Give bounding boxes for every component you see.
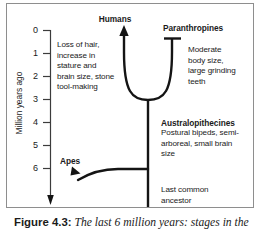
time-axis <box>43 30 54 205</box>
annotation-australopithecines: Postural bipeds, semi- arboreal, small b… <box>161 128 257 160</box>
axis-tick-label-2: 2 <box>24 71 38 81</box>
label-australopithecines: Australopithecines <box>161 118 257 129</box>
figure-caption: Figure 4.3: The last 6 million years: st… <box>14 216 254 229</box>
axis-tick-label-5: 5 <box>24 140 38 150</box>
axis-tick-label-0: 0 <box>24 25 38 35</box>
axis-tick-label-1: 1 <box>24 48 38 58</box>
label-humans: Humans <box>76 14 154 25</box>
figure-caption-label: Figure 4.3: <box>14 216 72 228</box>
annotation-paranthropines: Moderate body size, large grinding teeth <box>188 45 254 87</box>
figure-caption-text: The last 6 million years: stages in the <box>72 216 249 229</box>
axis-title: Million years ago <box>14 64 24 142</box>
annotation-humans: Loss of hair, increase in stature and br… <box>57 40 129 93</box>
axis-tick-label-4: 4 <box>24 117 38 127</box>
annotation-last-common-ancestor: Last common ancestor <box>161 185 245 206</box>
axis-tick-label-3: 3 <box>24 94 38 104</box>
figure-page: 0 1 2 3 4 5 6 Million years ago Humans P… <box>0 0 258 243</box>
apes-branch-arrow <box>71 167 149 181</box>
label-apes: Apes <box>60 156 104 167</box>
axis-tick-label-6: 6 <box>24 163 38 173</box>
lineage-split-u <box>124 52 172 100</box>
label-paranthropines: Paranthropines <box>163 23 255 34</box>
paranthropines-branch-cap <box>164 38 181 52</box>
